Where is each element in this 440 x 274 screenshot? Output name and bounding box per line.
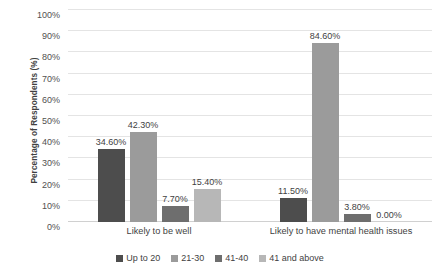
bar[interactable] — [280, 198, 307, 222]
x-axis-category-label: Likely to be well — [127, 226, 192, 236]
bar-value-label: 7.70% — [162, 194, 188, 204]
bar-group: 11.50%84.60%3.80%0.00% — [250, 10, 432, 222]
legend-swatch-icon — [215, 255, 222, 262]
bar[interactable] — [130, 132, 157, 222]
bar-slot: 3.80% — [344, 10, 371, 222]
bar-slot: 15.40% — [194, 10, 221, 222]
bar[interactable] — [312, 43, 339, 222]
legend-swatch-icon — [116, 255, 123, 262]
bar-value-label: 42.30% — [128, 120, 159, 130]
bar-slot: 0.00% — [376, 10, 403, 222]
bar-value-label: 11.50% — [278, 186, 308, 196]
legend-label: 41 and above — [269, 253, 324, 263]
bar-value-label: 34.60% — [96, 137, 127, 147]
legend-swatch-icon — [171, 255, 178, 262]
bar-slot: 11.50% — [280, 10, 307, 222]
bar[interactable] — [98, 149, 125, 222]
chart-legend: Up to 2021-3041-4041 and above — [0, 253, 440, 263]
bar[interactable] — [162, 206, 189, 222]
bar-value-label: 84.60% — [310, 31, 341, 41]
bar-chart: Percentage of Respondents (%) 0%10%20%30… — [0, 0, 440, 274]
y-axis-ticks: 0%10%20%30%40%50%60%70%80%90%100% — [0, 10, 64, 222]
bar-value-label: 15.40% — [192, 177, 223, 187]
legend-label: Up to 20 — [126, 253, 160, 263]
bar-slot: 84.60% — [312, 10, 339, 222]
legend-item[interactable]: 41 and above — [259, 253, 324, 263]
bar-value-label: 3.80% — [344, 202, 370, 212]
bar-value-label: 0.00% — [376, 210, 402, 220]
x-axis-category-label: Likely to have mental health issues — [270, 226, 413, 236]
legend-swatch-icon — [259, 255, 266, 262]
plot-area: 34.60%42.30%7.70%15.40%11.50%84.60%3.80%… — [68, 10, 432, 222]
bar[interactable] — [344, 214, 371, 222]
legend-item[interactable]: 41-40 — [215, 253, 248, 263]
legend-item[interactable]: Up to 20 — [116, 253, 160, 263]
legend-item[interactable]: 21-30 — [171, 253, 204, 263]
bar-slot: 34.60% — [98, 10, 125, 222]
bar-slot: 7.70% — [162, 10, 189, 222]
legend-label: 41-40 — [225, 253, 248, 263]
legend-label: 21-30 — [181, 253, 204, 263]
bar[interactable] — [194, 189, 221, 222]
bar-group: 34.60%42.30%7.70%15.40% — [68, 10, 250, 222]
bar-slot: 42.30% — [130, 10, 157, 222]
